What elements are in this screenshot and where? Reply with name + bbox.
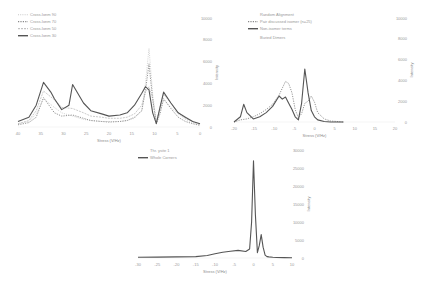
x-tick-label: -5 xyxy=(232,262,236,267)
x-tick-label: 20 xyxy=(393,126,398,131)
x-tick-label: -5 xyxy=(293,126,297,131)
y-tick-label: 0 xyxy=(210,125,213,130)
chart-panel-1: 40353025201510501000080006000400020000St… xyxy=(16,12,219,143)
x-tick-label: 30 xyxy=(61,131,66,136)
series-line xyxy=(234,69,344,122)
x-tick-label: -10 xyxy=(271,126,278,131)
y-tick-label: 10000 xyxy=(293,220,305,225)
series-line xyxy=(138,161,292,258)
legend-label: Pair discussed isomer (n=25) xyxy=(260,19,313,24)
y-tick-label: 6000 xyxy=(203,59,213,64)
x-tick-label: -10 xyxy=(212,262,219,267)
x-tick-label: 25 xyxy=(84,131,89,136)
x-tick-label: 40 xyxy=(16,131,21,136)
y-tick-label: 2000 xyxy=(398,99,408,104)
y-tick-label: 10000 xyxy=(201,16,213,21)
legend-label: Non-isomer terms xyxy=(260,26,292,31)
x-tick-label: -25 xyxy=(154,262,161,267)
legend-label: Cross-Ionm 90 xyxy=(30,12,57,17)
x-tick-label: -15 xyxy=(193,262,200,267)
legend-label: Whole Corners xyxy=(150,155,177,160)
y-tick-label: 0 xyxy=(302,256,305,261)
x-tick-label: 5 xyxy=(176,131,179,136)
legend-title: Random Alignment xyxy=(260,12,295,17)
x-tick-label: 35 xyxy=(39,131,44,136)
legend-label: Cross-Ionm 70 xyxy=(30,19,57,24)
chart-panel-3: -30-25-20-15-10-505103000025000200001500… xyxy=(135,148,311,275)
x-tick-label: 5 xyxy=(334,126,337,131)
y-tick-label: 20000 xyxy=(293,184,305,189)
x-tick-label: 10 xyxy=(353,126,358,131)
x-tick-label: 0 xyxy=(313,126,316,131)
x-tick-label: 15 xyxy=(373,126,378,131)
y-tick-label: 8000 xyxy=(398,36,408,41)
y-tick-label: 25000 xyxy=(293,166,305,171)
y-tick-label: 4000 xyxy=(398,78,408,83)
x-tick-label: 10 xyxy=(290,262,295,267)
x-axis-label: Stress (V/Hz) xyxy=(97,138,121,143)
x-tick-label: 0 xyxy=(199,131,202,136)
x-tick-label: -15 xyxy=(251,126,258,131)
x-axis-label: Stress (V/Hz) xyxy=(203,269,227,274)
legend-title: Thr. ysite 1 xyxy=(150,148,170,153)
x-tick-label: 5 xyxy=(272,262,275,267)
series-line xyxy=(18,82,200,123)
y-tick-label: 8000 xyxy=(203,37,213,42)
x-tick-label: 15 xyxy=(130,131,135,136)
x-tick-label: 0 xyxy=(252,262,255,267)
chart-panel-2: -20-15-10-505101520100008000600040002000… xyxy=(231,12,414,138)
y-tick-label: 4000 xyxy=(203,81,213,86)
figure: 40353025201510501000080006000400020000St… xyxy=(0,0,435,283)
series-line xyxy=(18,49,200,125)
y-axis-label: Intensity xyxy=(306,197,311,212)
y-tick-label: 15000 xyxy=(293,202,305,207)
y-axis-label: Intensity xyxy=(409,63,414,78)
x-tick-label: -20 xyxy=(231,126,238,131)
y-tick-label: 2000 xyxy=(203,103,213,108)
y-tick-label: 6000 xyxy=(398,57,408,62)
x-tick-label: 10 xyxy=(152,131,157,136)
y-tick-label: 10000 xyxy=(396,16,408,21)
x-axis-label: Stress (V/Hz) xyxy=(303,133,327,138)
y-axis-label: Intensity xyxy=(214,65,219,80)
legend-label: Cross-Ionm 30 xyxy=(30,33,57,38)
legend-note: Buried Dimers xyxy=(260,35,285,40)
y-tick-label: 0 xyxy=(405,120,408,125)
x-tick-label: 20 xyxy=(107,131,112,136)
y-tick-label: 30000 xyxy=(293,148,305,153)
x-tick-label: -30 xyxy=(135,262,142,267)
x-tick-label: -20 xyxy=(174,262,181,267)
legend-label: Cross-Ionm 50 xyxy=(30,26,57,31)
y-tick-label: 5000 xyxy=(295,238,305,243)
